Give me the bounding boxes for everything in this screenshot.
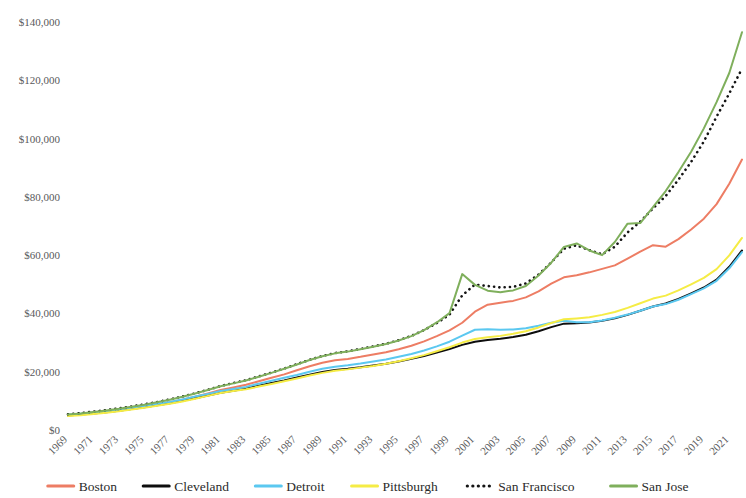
series-line-san-francisco: [68, 69, 742, 415]
y-axis-tick-label: $40,000: [24, 307, 60, 319]
series-line-boston: [68, 160, 742, 416]
x-axis-tick-label: 2003: [478, 433, 502, 457]
x-axis-tick-label: 1983: [223, 433, 247, 457]
x-axis-tick-labels: 1969197119731975197719791981198319851987…: [45, 433, 730, 457]
legend-label: San Jose: [642, 479, 689, 494]
x-axis-tick-label: 1997: [401, 433, 425, 457]
x-axis-tick-label: 1985: [249, 433, 273, 457]
x-axis-tick-label: 1989: [300, 433, 324, 457]
series-line-san-jose: [68, 32, 742, 414]
x-axis-tick-label: 1993: [351, 433, 375, 457]
legend-label: Cleveland: [174, 479, 229, 494]
x-axis-tick-label: 1987: [274, 433, 298, 457]
y-axis-tick-label: $80,000: [24, 191, 60, 203]
legend-item-boston[interactable]: Boston: [48, 479, 118, 494]
x-axis-tick-label: 2011: [580, 433, 604, 457]
x-axis-tick-label: 2005: [503, 433, 527, 457]
x-axis-tick-label: 1971: [71, 433, 95, 457]
line-chart: $0$20,000$40,000$60,000$80,000$100,000$1…: [0, 0, 746, 498]
x-axis-tick-label: 1999: [427, 433, 451, 457]
x-axis-tick-label: 2015: [630, 433, 654, 457]
x-axis-tick-label: 2013: [605, 433, 629, 457]
x-axis-tick-label: 1979: [173, 433, 197, 457]
legend-item-detroit[interactable]: Detroit: [255, 479, 324, 494]
chart-container: $0$20,000$40,000$60,000$80,000$100,000$1…: [0, 0, 746, 498]
y-axis-tick-label: $60,000: [24, 249, 60, 261]
legend-label: Detroit: [286, 479, 324, 494]
chart-legend: BostonClevelandDetroitPittsburghSan Fran…: [48, 479, 689, 494]
x-axis-tick-label: 1969: [45, 433, 69, 457]
y-axis-tick-label: $100,000: [19, 133, 61, 145]
plot-series-group: [68, 32, 742, 416]
x-axis-tick-label: 1973: [96, 433, 120, 457]
x-axis-tick-label: 2017: [656, 433, 680, 457]
legend-item-pittsburgh[interactable]: Pittsburgh: [352, 479, 439, 494]
legend-label: San Francisco: [498, 479, 574, 494]
y-axis-tick-label: $120,000: [19, 74, 61, 86]
x-axis-tick-label: 1995: [376, 433, 400, 457]
x-axis-tick-label: 1981: [198, 433, 222, 457]
series-line-cleveland: [68, 250, 742, 415]
x-axis-tick-label: 2019: [681, 433, 705, 457]
x-axis-tick-label: 2021: [707, 433, 731, 457]
y-axis-tick-label: $140,000: [19, 16, 61, 28]
x-axis-tick-label: 1975: [122, 433, 146, 457]
x-axis-tick-label: 2009: [554, 433, 578, 457]
y-axis-tick-labels: $0$20,000$40,000$60,000$80,000$100,000$1…: [19, 16, 61, 436]
x-axis-tick-label: 2001: [452, 433, 476, 457]
x-axis-tick-label: 1977: [147, 433, 171, 457]
x-axis-tick-label: 2007: [529, 433, 553, 457]
legend-item-san-francisco[interactable]: San Francisco: [467, 479, 574, 494]
legend-item-san-jose[interactable]: San Jose: [611, 479, 689, 494]
legend-label: Pittsburgh: [383, 479, 439, 494]
legend-label: Boston: [79, 479, 118, 494]
legend-item-cleveland[interactable]: Cleveland: [143, 479, 229, 494]
series-line-pittsburgh: [68, 238, 742, 416]
y-axis-tick-label: $20,000: [24, 366, 60, 378]
x-axis-tick-label: 1991: [325, 433, 349, 457]
series-line-detroit: [68, 252, 742, 415]
